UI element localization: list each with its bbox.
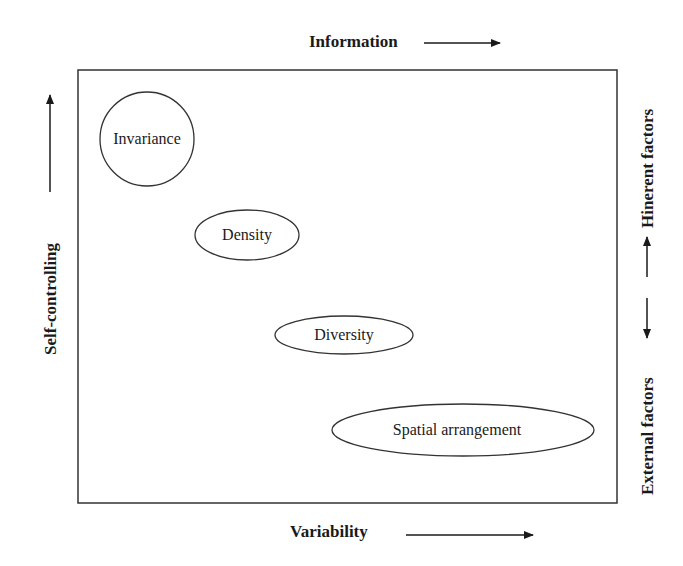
right-axis-label-top: Hinerent factors [638, 108, 657, 228]
node-density: Density [195, 210, 299, 260]
node-spatial-arrangement: Spatial arrangement [332, 404, 594, 456]
node-label: Spatial arrangement [393, 421, 522, 439]
bottom-axis-label: Variability [290, 522, 368, 541]
top-axis-label: Information [309, 32, 398, 51]
node-label: Density [222, 226, 272, 244]
node-diversity: Diversity [275, 316, 413, 354]
node-label: Invariance [113, 130, 181, 147]
left-axis-label: Self-controlling [41, 242, 60, 355]
diagram-canvas: Information Variability Self-controlling… [0, 0, 683, 566]
node-invariance: Invariance [100, 92, 194, 186]
right-axis-label-bottom: External factors [638, 377, 657, 495]
node-label: Diversity [314, 326, 374, 344]
